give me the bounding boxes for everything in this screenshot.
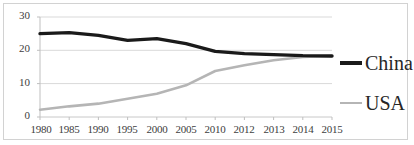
line-series-china: [40, 33, 332, 56]
legend-item-china[interactable]: China: [340, 53, 413, 73]
y-tick-label-20: 20: [8, 42, 30, 54]
legend-label-usa: USA: [365, 93, 405, 113]
x-tick-label-1985: 1985: [55, 123, 83, 135]
x-tick-label-1980: 1980: [27, 123, 55, 135]
legend-line-swatch-usa-icon: [340, 102, 362, 104]
line-series-usa: [40, 56, 332, 110]
x-tick-label-2010: 2010: [201, 123, 229, 135]
x-tick-label-1990: 1990: [84, 123, 112, 135]
legend-item-usa[interactable]: USA: [340, 93, 405, 113]
y-tick-label-10: 10: [8, 76, 30, 88]
gridlines: [40, 17, 332, 117]
legend-label-china: China: [365, 53, 413, 73]
legend-line-swatch-china-icon: [340, 61, 362, 65]
x-tick-label-2015: 2015: [318, 123, 346, 135]
y-tick-label-30: 30: [8, 9, 30, 21]
x-tick-label-2005: 2005: [172, 123, 200, 135]
x-tick-label-1995: 1995: [113, 123, 141, 135]
x-tick-label-2012: 2012: [230, 123, 258, 135]
y-tick-label-0: 0: [8, 109, 30, 121]
x-tick-label-2014: 2014: [289, 123, 317, 135]
x-tick-label-2000: 2000: [143, 123, 171, 135]
chart-container: 30 20 10 0 1980 1985 1990 1995 2000 2005…: [3, 3, 408, 140]
x-tick-label-2013: 2013: [260, 123, 288, 135]
